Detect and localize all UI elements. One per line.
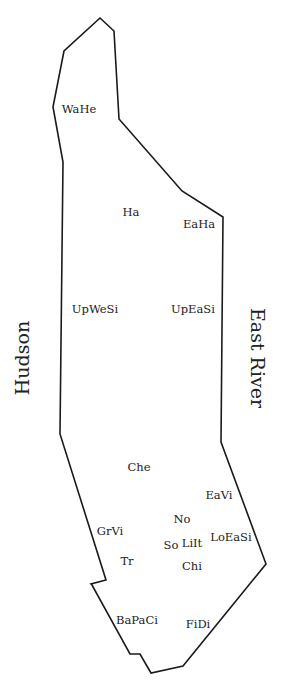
- neighborhood-label-battery-park-city: BaPaCi: [116, 613, 158, 627]
- hudson-river-label: Hudson: [11, 321, 33, 395]
- neighborhood-label-chinatown: Chi: [182, 559, 202, 573]
- manhattan-map: Hudson East River WaHe Ha EaHa UpWeSi Up…: [0, 0, 286, 693]
- neighborhood-label-upper-west-side: UpWeSi: [72, 302, 119, 316]
- neighborhood-label-upper-east-side: UpEaSi: [171, 302, 215, 316]
- neighborhood-label-lower-east-side: LoEaSi: [210, 530, 252, 544]
- neighborhood-label-soho: So: [164, 538, 179, 552]
- neighborhood-label-noho: No: [174, 512, 191, 526]
- neighborhood-label-east-village: EaVi: [205, 488, 232, 502]
- neighborhood-label-little-italy: LiIt: [182, 536, 203, 550]
- neighborhood-label-tribeca: Tr: [120, 554, 134, 568]
- neighborhood-label-east-harlem: EaHa: [183, 217, 215, 231]
- neighborhood-label-harlem: Ha: [123, 205, 140, 219]
- neighborhood-label-greenwich-village: GrVi: [97, 524, 124, 538]
- manhattan-outline: [53, 18, 266, 673]
- neighborhood-label-financial-district: FiDi: [186, 617, 211, 631]
- neighborhood-label-chelsea: Che: [127, 460, 150, 474]
- neighborhood-labels: WaHe Ha EaHa UpWeSi UpEaSi Che EaVi No G…: [62, 102, 252, 631]
- east-river-label: East River: [247, 308, 269, 409]
- neighborhood-label-washington-heights: WaHe: [62, 102, 97, 116]
